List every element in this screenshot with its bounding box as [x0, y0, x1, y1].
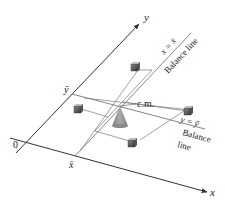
origin-label: 0	[13, 139, 18, 150]
cm-leader	[120, 104, 136, 106]
y-axis-label: y	[143, 11, 149, 23]
mass-cube-2	[74, 104, 83, 113]
mass-cube-3	[184, 106, 193, 115]
cone-support	[112, 106, 128, 128]
x-axis-label: x	[209, 186, 215, 198]
y-axis	[16, 24, 139, 153]
balance-diagram: y x 0 ȳ x̄ c.m. x = x̄ Balance line y = …	[0, 0, 225, 207]
x-bar-label: x̄	[68, 159, 74, 170]
center-of-mass-label: c.m.	[137, 98, 154, 109]
mass-cube-1	[131, 62, 140, 71]
y-bar-label: ȳ	[63, 84, 69, 95]
balance-line-y-caption-2: line	[176, 139, 192, 152]
mass-cube-4	[128, 138, 137, 147]
balance-line-x	[75, 33, 191, 156]
balance-line-y-equation: y = ȳ	[179, 114, 201, 129]
